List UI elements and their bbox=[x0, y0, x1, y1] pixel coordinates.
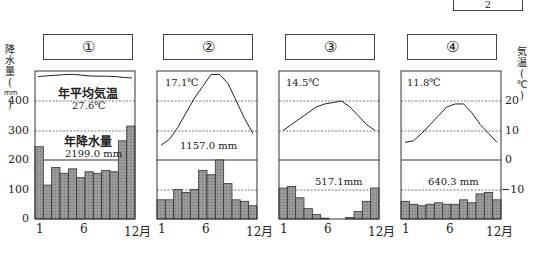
x-tick-1: 1 bbox=[158, 222, 166, 236]
annual-temp-label: 年平均気温 bbox=[58, 84, 118, 101]
panel-2-temp: 17.1℃ bbox=[165, 77, 198, 88]
panel-3-temp: 14.5℃ bbox=[286, 77, 319, 88]
chart-graphics bbox=[0, 0, 536, 254]
x-tick-1: 1 bbox=[280, 222, 288, 236]
x-tick-6: 6 bbox=[80, 222, 88, 236]
panel-4-temp: 11.8℃ bbox=[407, 77, 440, 88]
x-tick-6: 6 bbox=[446, 222, 454, 236]
panel-1-temp: 27.6℃ bbox=[72, 100, 105, 111]
x-tick-6: 6 bbox=[324, 222, 332, 236]
x-tick-12: 12月 bbox=[486, 222, 513, 239]
annual-precip-label: 年降水量 bbox=[64, 132, 112, 149]
x-tick-1: 1 bbox=[402, 222, 410, 236]
x-tick-12: 12月 bbox=[368, 222, 395, 239]
x-tick-12: 12月 bbox=[246, 222, 273, 239]
panel-4-precip: 640.3 mm bbox=[428, 176, 479, 187]
x-tick-12: 12月 bbox=[124, 222, 151, 239]
x-tick-1: 1 bbox=[36, 222, 44, 236]
panel-1-precip: 2199.0 mm bbox=[65, 148, 122, 159]
panel-2-precip: 1157.0 mm bbox=[180, 140, 237, 151]
panel-3-precip: 517.1mm bbox=[315, 176, 363, 187]
x-tick-6: 6 bbox=[202, 222, 210, 236]
